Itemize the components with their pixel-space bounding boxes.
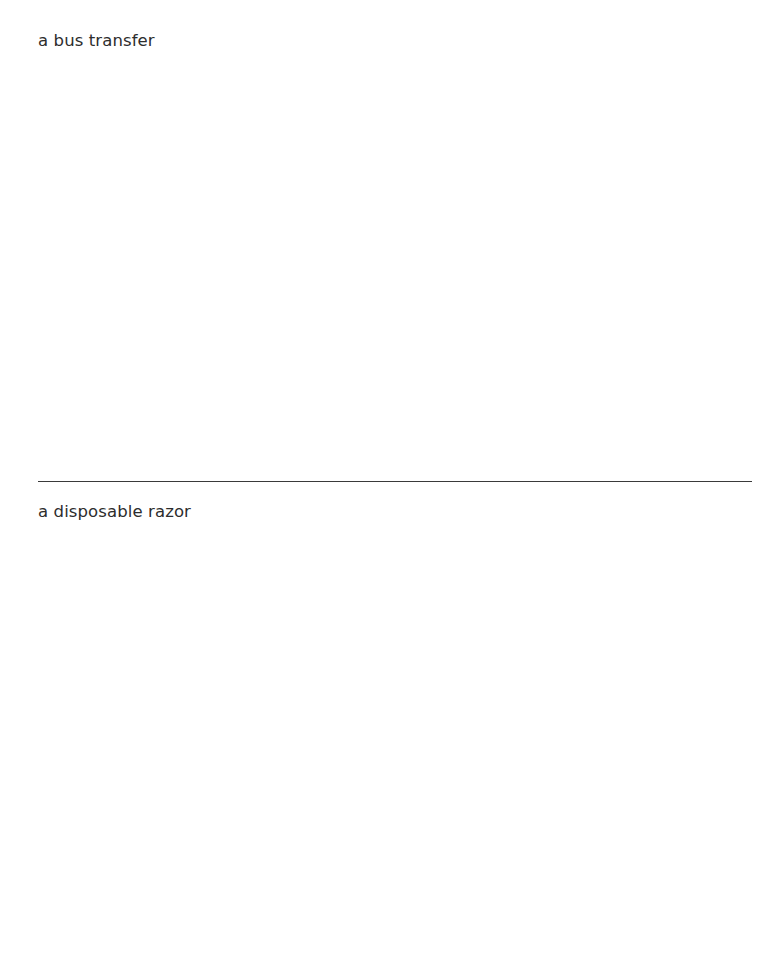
section-divider [38,481,752,482]
document-page: a bus transfer a disposable razor [0,0,779,977]
blank-answer-area-2 [38,528,752,958]
caption-entry-1: a bus transfer [38,31,155,51]
caption-entry-2: a disposable razor [38,502,191,522]
blank-answer-area-1 [38,58,752,478]
